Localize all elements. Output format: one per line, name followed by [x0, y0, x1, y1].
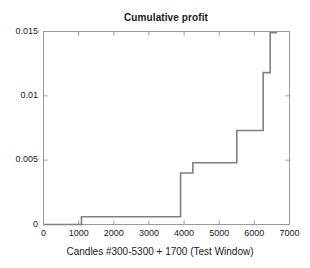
y-tick-label: 0.005: [0, 154, 38, 164]
x-axis-label: Candles #300-5300 + 1700 (Test Window): [20, 246, 300, 257]
chart-figure: Cumulative profit 00.0050.010.015 010002…: [0, 0, 309, 268]
x-tick-label: 4000: [164, 228, 204, 238]
x-tick-label: 5000: [199, 228, 239, 238]
y-tick-label: 0.015: [0, 26, 38, 36]
x-tick-label: 7000: [270, 228, 310, 238]
x-tick-label: 3000: [129, 228, 169, 238]
cumulative-profit-series: [44, 33, 278, 225]
x-tick-label: 6000: [234, 228, 274, 238]
y-tick-label: 0.01: [0, 90, 38, 100]
x-tick-label: 0: [24, 228, 64, 238]
x-tick-label: 1000: [59, 228, 99, 238]
axes-frame: [44, 32, 290, 225]
x-tick-label: 2000: [94, 228, 134, 238]
